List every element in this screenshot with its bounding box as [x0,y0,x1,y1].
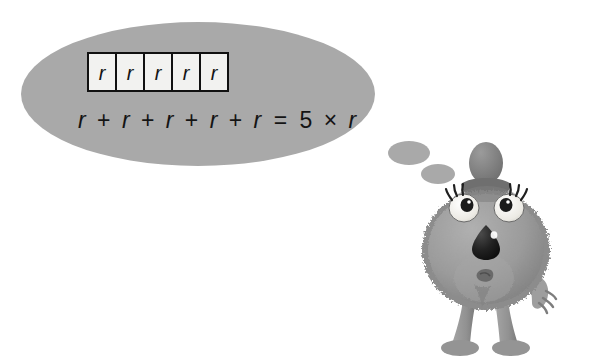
thought-trail-dot-small [421,164,455,184]
equation-token-plus: + [97,107,110,133]
left-foot [441,340,479,356]
equation-token-r: r [122,107,131,133]
r-box: r [200,53,228,91]
illustration-canvas: Multiplication as repeated addition thou… [0,0,589,364]
scene-svg: Multiplication as repeated addition thou… [0,0,589,364]
r-box: r [116,53,144,91]
thought-bubble-ellipse [21,22,375,166]
r-box: r [172,53,200,91]
right-foot [492,340,530,356]
equation-token-plus: + [141,107,154,133]
left-eye-glint [467,200,471,204]
equation-token-r: r [254,107,263,133]
r-box: r [88,53,116,91]
r-boxes-row: r r r r r [88,53,228,91]
equation-token-plus: + [185,107,198,133]
thought-trail-dot-large [388,141,430,165]
equation-token-equals: = [274,107,287,133]
equation-token-r: r [78,107,87,133]
r-box: r [144,53,172,91]
left-eye-pupil [461,198,474,212]
equation-token-times: × [324,107,337,133]
equation-token-r: r [348,107,357,133]
hat-crown [469,142,503,184]
equation-token-plus: + [229,107,242,133]
equation-token-r: r [210,107,219,133]
right-eye-pupil [500,198,513,212]
nose-highlight [491,231,498,239]
right-eye-glint [506,200,510,204]
equation-token-five: 5 [299,107,312,133]
equation-token-r: r [166,107,175,133]
